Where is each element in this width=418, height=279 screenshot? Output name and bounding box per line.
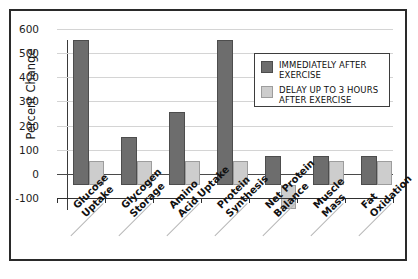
x-tick-mark	[57, 198, 58, 203]
legend-entry: DELAY UP TO 3 HOURS AFTER EXERCISE	[261, 85, 383, 105]
bar	[73, 40, 89, 185]
bar	[361, 156, 377, 185]
y-tick-label: 500	[5, 48, 39, 58]
chart-figure: Percent Change -1000100200300400500600 G…	[0, 0, 418, 279]
y-tick-label: -100	[5, 193, 39, 203]
legend-swatch-delay-icon	[261, 86, 273, 98]
bar	[121, 137, 137, 185]
y-tick-label: 300	[5, 96, 39, 106]
y-tick-label: 100	[5, 145, 39, 155]
bar	[169, 112, 185, 184]
legend-entry: IMMEDIATELY AFTER EXERCISE	[261, 60, 383, 80]
y-tick-label: 400	[5, 72, 39, 82]
legend-label: DELAY UP TO 3 HOURS AFTER EXERCISE	[279, 85, 383, 105]
y-tick-label: 0	[5, 169, 39, 179]
chart-frame: Percent Change -1000100200300400500600 G…	[9, 9, 407, 261]
gridline	[57, 29, 393, 30]
y-tick-label: 200	[5, 121, 39, 131]
legend-swatch-immediately-icon	[261, 61, 273, 73]
chart-legend: IMMEDIATELY AFTER EXERCISE DELAY UP TO 3…	[254, 53, 390, 107]
legend-label: IMMEDIATELY AFTER EXERCISE	[279, 60, 383, 80]
y-tick-label: 600	[5, 24, 39, 34]
